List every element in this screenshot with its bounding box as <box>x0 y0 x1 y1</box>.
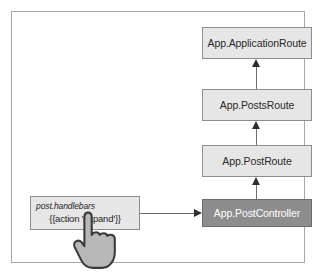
connector-template-to-post-controller <box>140 207 202 220</box>
node-label: App.PostRoute <box>222 156 291 167</box>
pointing-hand-cursor-icon <box>71 210 117 272</box>
arrowhead-up-icon <box>252 59 260 67</box>
connector-line <box>256 183 257 199</box>
node-app-post-route[interactable]: App.PostRoute <box>202 145 312 177</box>
connector-line <box>140 213 195 214</box>
arrowhead-right-icon <box>194 209 202 217</box>
diagram-frame: App.ApplicationRoute App.PostsRoute App.… <box>11 11 305 263</box>
arrowhead-up-icon <box>252 177 260 185</box>
arrowhead-up-icon <box>252 121 260 129</box>
node-label: App.PostController <box>214 208 300 219</box>
connector-post-route-to-posts-route <box>250 121 263 145</box>
node-app-posts-route[interactable]: App.PostsRoute <box>202 89 312 121</box>
node-label: App.PostsRoute <box>220 100 294 111</box>
connector-post-controller-to-post-route <box>250 177 263 199</box>
diagram-canvas: App.ApplicationRoute App.PostsRoute App.… <box>0 0 318 279</box>
node-app-application-route[interactable]: App.ApplicationRoute <box>202 27 312 59</box>
node-app-post-controller[interactable]: App.PostController <box>202 199 312 227</box>
connector-posts-route-to-application-route <box>250 59 263 89</box>
connector-line <box>256 65 257 89</box>
connector-line <box>256 127 257 145</box>
node-label: App.ApplicationRoute <box>208 38 307 49</box>
